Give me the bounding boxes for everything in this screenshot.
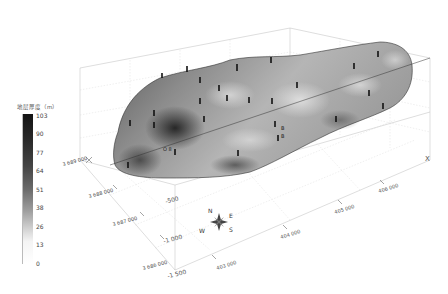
- compass-rose-icon: [210, 213, 228, 231]
- legend-tick: 103: [36, 113, 47, 119]
- thickness-surface: [114, 42, 413, 178]
- legend-tick: 13: [36, 242, 44, 248]
- legend-title: 地层厚度（m）: [17, 103, 58, 111]
- legend-tick: 77: [36, 150, 44, 156]
- x-axis-name: X: [425, 155, 430, 163]
- surface-annotation: O 8: [163, 146, 172, 152]
- compass-west: W: [199, 227, 205, 234]
- legend-tick: 38: [36, 205, 44, 211]
- surface-annotation: B: [281, 133, 284, 139]
- legend-tick: 51: [36, 187, 44, 193]
- compass-east: E: [229, 212, 233, 219]
- legend-tick: 0: [36, 261, 40, 267]
- chart-root: 地层厚度（m） 103 90 77 64 51 38 26 13 0 3 689…: [0, 0, 448, 294]
- compass-south: S: [229, 226, 233, 233]
- surface-annotation: B: [281, 125, 284, 131]
- legend-tick: 90: [36, 131, 44, 137]
- compass-north: N: [208, 207, 213, 214]
- legend-tick: 64: [36, 168, 44, 174]
- surface-plot: [0, 0, 448, 294]
- color-scale-bar: [22, 114, 33, 264]
- legend-tick: 26: [36, 224, 44, 230]
